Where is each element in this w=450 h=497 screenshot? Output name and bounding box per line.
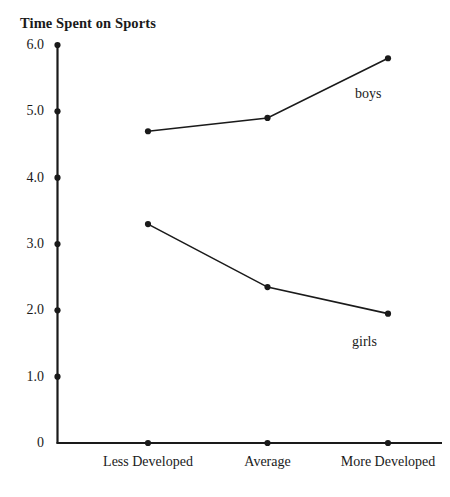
line-chart-plot xyxy=(0,0,450,497)
data-point-girls xyxy=(145,221,151,227)
x-tick-label: Average xyxy=(244,454,290,470)
y-tick-marker xyxy=(54,175,60,181)
series-polylines xyxy=(148,58,388,313)
y-tick-label: 2.0 xyxy=(0,302,44,318)
y-tick-label: 6.0 xyxy=(0,37,44,53)
data-point-boys xyxy=(264,115,270,121)
chart-page: Time Spent on Sports 01.02.03.04.05.06.0… xyxy=(0,0,450,497)
y-tick-label: 1.0 xyxy=(0,369,44,385)
y-tick-marker xyxy=(54,307,60,313)
x-tick-marker xyxy=(264,440,270,446)
series-label-girls: girls xyxy=(352,334,377,350)
x-tick-marker xyxy=(385,440,391,446)
x-tick-label: More Developed xyxy=(341,454,435,470)
x-tick-label: Less Developed xyxy=(103,454,193,470)
chart-axes xyxy=(57,45,443,444)
y-tick-marker xyxy=(54,108,60,114)
y-tick-label: 5.0 xyxy=(0,103,44,119)
y-tick-marker xyxy=(54,42,60,48)
data-point-girls xyxy=(264,284,270,290)
y-tick-label: 3.0 xyxy=(0,236,44,252)
data-point-girls xyxy=(385,311,391,317)
data-point-boys xyxy=(145,128,151,134)
series-line-girls xyxy=(148,224,388,314)
series-label-boys: boys xyxy=(355,86,381,102)
y-tick-label: 4.0 xyxy=(0,170,44,186)
x-tick-marker xyxy=(145,440,151,446)
data-point-boys xyxy=(385,55,391,61)
y-tick-marker xyxy=(54,241,60,247)
y-tick-label: 0 xyxy=(0,435,44,451)
y-tick-marker xyxy=(54,374,60,380)
